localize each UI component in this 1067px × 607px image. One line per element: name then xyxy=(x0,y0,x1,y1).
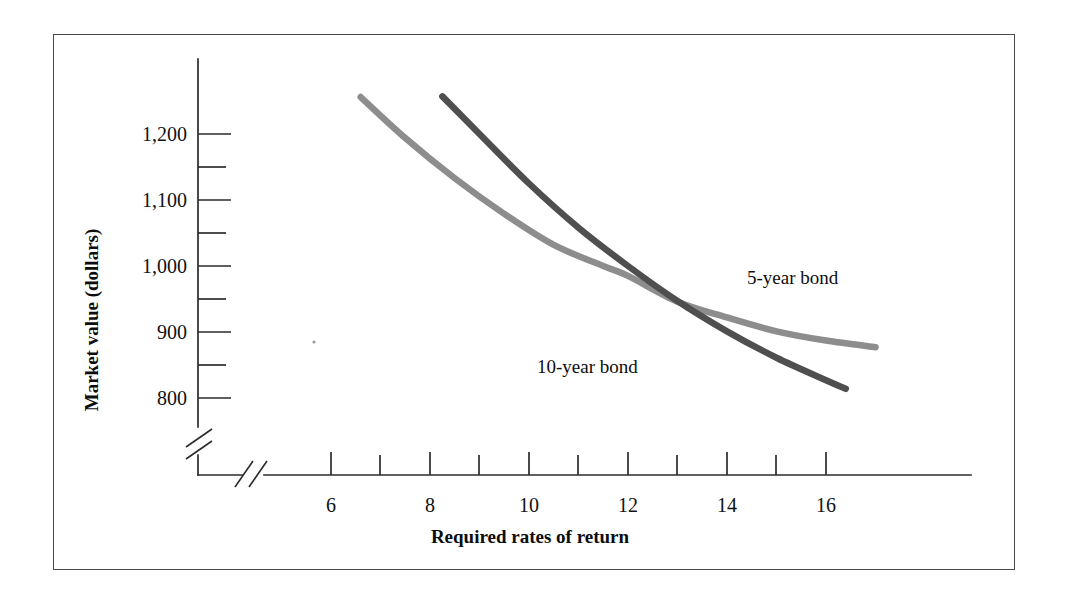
y-axis-major-ticks xyxy=(198,134,231,398)
x-tick-label-16: 16 xyxy=(816,494,836,516)
y-tick-label-1100: 1,100 xyxy=(142,189,187,211)
chart-figure: 1,200 1,100 1,000 900 800 Market value (… xyxy=(0,0,1067,607)
series-label-10-year-bond: 10-year bond xyxy=(537,356,638,377)
x-tick-label-14: 14 xyxy=(717,494,737,516)
y-tick-label-900: 900 xyxy=(157,321,187,343)
series-label-5-year-bond: 5-year bond xyxy=(747,267,839,288)
y-tick-label-800: 800 xyxy=(157,387,187,409)
x-axis-break-icon xyxy=(235,461,267,487)
y-tick-label-1000: 1,000 xyxy=(142,255,187,277)
x-axis-ticks xyxy=(331,452,826,475)
series-curve-5-year-bond xyxy=(361,97,876,347)
x-tick-label-10: 10 xyxy=(519,494,539,516)
y-axis-break-icon xyxy=(186,429,212,459)
x-axis-title: Required rates of return xyxy=(431,526,630,547)
figure-border: 1,200 1,100 1,000 900 800 Market value (… xyxy=(53,34,1015,570)
y-tick-label-1200: 1,200 xyxy=(142,123,187,145)
y-axis-title: Market value (dollars) xyxy=(81,229,103,412)
x-tick-label-8: 8 xyxy=(425,494,435,516)
scan-speck xyxy=(312,340,315,343)
x-tick-label-12: 12 xyxy=(618,494,638,516)
x-tick-label-6: 6 xyxy=(326,494,336,516)
chart-plot-area: 1,200 1,100 1,000 900 800 Market value (… xyxy=(54,35,1014,569)
series-curve-10-year-bond xyxy=(442,96,845,388)
